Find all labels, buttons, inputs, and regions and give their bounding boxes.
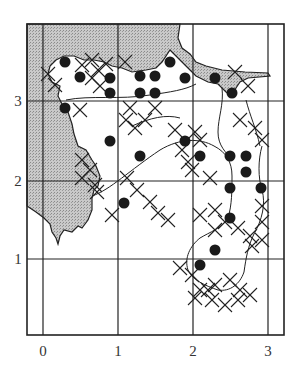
x-axis-labels: 0 1 2 3 xyxy=(39,343,272,359)
dot-marker xyxy=(135,151,146,162)
dot-marker xyxy=(227,88,238,99)
dot-marker xyxy=(75,72,86,83)
dot-marker xyxy=(119,198,130,209)
dot-marker xyxy=(225,151,236,162)
dot-marker xyxy=(165,57,176,68)
dot-marker xyxy=(105,88,116,99)
dot-marker xyxy=(60,57,71,68)
x-tick-2: 2 xyxy=(189,343,197,359)
dot-marker xyxy=(150,71,161,82)
y-tick-2: 2 xyxy=(14,173,22,189)
dot-marker xyxy=(60,103,71,114)
dot-marker xyxy=(195,151,206,162)
dot-marker xyxy=(225,183,236,194)
x-tick-0: 0 xyxy=(39,343,47,359)
y-tick-3: 3 xyxy=(14,93,22,109)
dot-marker xyxy=(135,88,146,99)
distribution-map: 0 1 2 3 3 2 1 xyxy=(0,0,300,380)
dot-marker xyxy=(105,73,116,84)
dot-marker xyxy=(241,151,252,162)
x-tick-1: 1 xyxy=(114,343,122,359)
dot-marker xyxy=(241,167,252,178)
dot-marker xyxy=(135,71,146,82)
x-tick-3: 3 xyxy=(264,343,272,359)
dot-marker xyxy=(256,183,267,194)
dot-marker xyxy=(105,136,116,147)
dot-marker xyxy=(210,245,221,256)
dot-marker xyxy=(180,136,191,147)
dot-marker xyxy=(150,88,161,99)
dot-marker xyxy=(210,73,221,84)
dot-marker xyxy=(225,213,236,224)
dot-marker xyxy=(180,73,191,84)
y-axis-labels: 3 2 1 xyxy=(14,93,22,267)
dot-marker xyxy=(195,260,206,271)
y-tick-1: 1 xyxy=(14,251,22,267)
